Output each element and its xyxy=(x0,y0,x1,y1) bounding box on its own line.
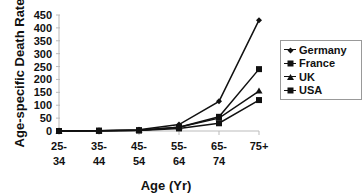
diamond-marker-icon xyxy=(284,46,296,54)
y-tick-labels: 050100150200250300350400450 xyxy=(34,9,52,137)
svg-text:34: 34 xyxy=(53,155,66,167)
svg-text:44: 44 xyxy=(93,155,106,167)
legend-item-uk: UK xyxy=(284,70,358,84)
svg-text:65-: 65- xyxy=(211,140,227,152)
y-axis-label: Age-specific Death Rate xyxy=(12,0,27,147)
svg-text:74: 74 xyxy=(213,155,226,167)
svg-text:0: 0 xyxy=(46,125,52,137)
svg-text:35-: 35- xyxy=(91,140,107,152)
svg-text:150: 150 xyxy=(34,86,52,98)
svg-text:200: 200 xyxy=(34,73,52,85)
data-series xyxy=(56,17,263,134)
svg-text:50: 50 xyxy=(40,112,52,124)
legend-item-france: France xyxy=(284,57,358,71)
legend-label: UK xyxy=(299,71,315,83)
legend-item-usa: USA xyxy=(284,84,358,98)
svg-text:100: 100 xyxy=(34,99,52,111)
svg-text:54: 54 xyxy=(133,155,146,167)
legend-label: USA xyxy=(299,84,322,96)
legend-item-germany: Germany xyxy=(284,43,358,57)
svg-text:Age-specific Death Rate: Age-specific Death Rate xyxy=(12,0,27,147)
svg-text:350: 350 xyxy=(34,35,52,47)
svg-text:64: 64 xyxy=(173,155,186,167)
square-marker-icon xyxy=(284,59,296,67)
legend-label: France xyxy=(299,57,335,69)
svg-text:55-: 55- xyxy=(171,140,187,152)
svg-text:75+: 75+ xyxy=(250,140,269,152)
square-marker-icon xyxy=(284,86,296,94)
svg-text:25-: 25- xyxy=(51,140,67,152)
svg-text:450: 450 xyxy=(34,9,52,21)
svg-text:250: 250 xyxy=(34,61,52,73)
triangle-marker-icon xyxy=(284,73,296,81)
x-tick-labels: 25-3435-4445-5455-6465-7475+ xyxy=(51,140,268,167)
svg-text:400: 400 xyxy=(34,22,52,34)
svg-text:300: 300 xyxy=(34,48,52,60)
svg-text:45-: 45- xyxy=(131,140,147,152)
legend-label: Germany xyxy=(299,44,347,56)
x-axis-label: Age (Yr) xyxy=(141,178,192,193)
legend: GermanyFranceUKUSA xyxy=(280,40,362,100)
